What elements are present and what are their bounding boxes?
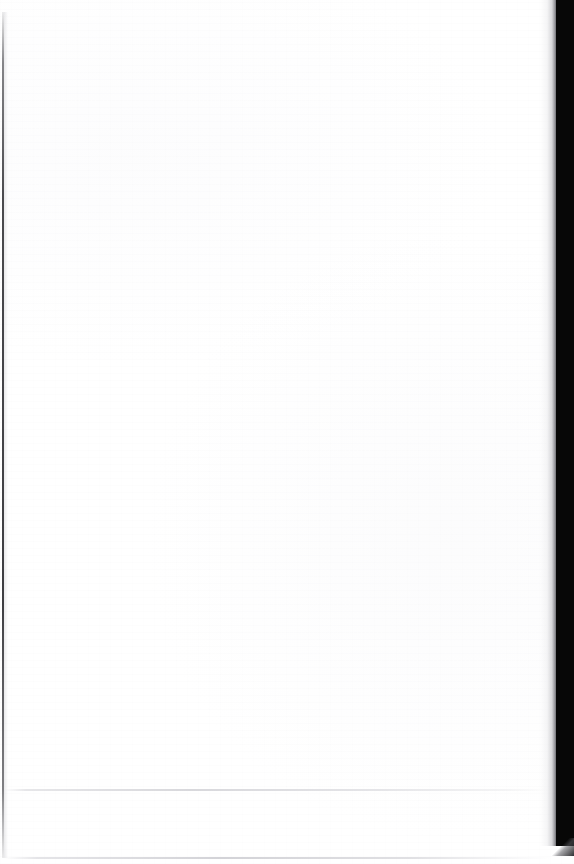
scan-edge-left-halo	[4, 12, 8, 858]
scan-gutter-right	[556, 0, 574, 846]
page-content-area	[10, 16, 536, 782]
page-body-text	[10, 16, 536, 782]
scanned-page	[0, 0, 574, 864]
page-footer-area	[10, 793, 536, 853]
page-bottom-rule	[4, 857, 552, 859]
scan-gutter-falloff	[540, 0, 557, 846]
scan-gutter-tail	[548, 838, 574, 856]
page-crease-line	[4, 789, 552, 791]
